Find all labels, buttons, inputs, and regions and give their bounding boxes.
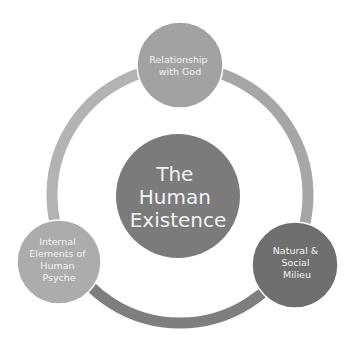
cycle-diagram: The Human Existence Relationship with Go… bbox=[0, 0, 355, 339]
center-label-line: Existence bbox=[130, 208, 227, 232]
node-label-line: Internal bbox=[39, 236, 76, 247]
node-label-line: Relationship bbox=[149, 54, 207, 65]
node-label-line: with God bbox=[159, 66, 201, 77]
center-label-line: The bbox=[155, 162, 193, 186]
node-label-line: Human bbox=[40, 260, 74, 271]
node-label-line: Elements of bbox=[29, 248, 86, 259]
node-label-line: Social bbox=[281, 257, 309, 268]
node-circle-top bbox=[137, 22, 223, 108]
node-internal-elements-human-psyche: Internal Elements of Human Psyche bbox=[17, 220, 101, 304]
node-relationship-with-god: Relationship with God bbox=[137, 22, 223, 108]
node-label-line: Natural & bbox=[273, 245, 319, 256]
center-node: The Human Existence bbox=[116, 134, 240, 258]
center-label-line: Human bbox=[139, 185, 211, 209]
node-label-line: Milieu bbox=[283, 269, 311, 280]
node-natural-social-milieu: Natural & Social Milieu bbox=[252, 222, 338, 308]
node-label-line: Psyche bbox=[42, 272, 75, 283]
